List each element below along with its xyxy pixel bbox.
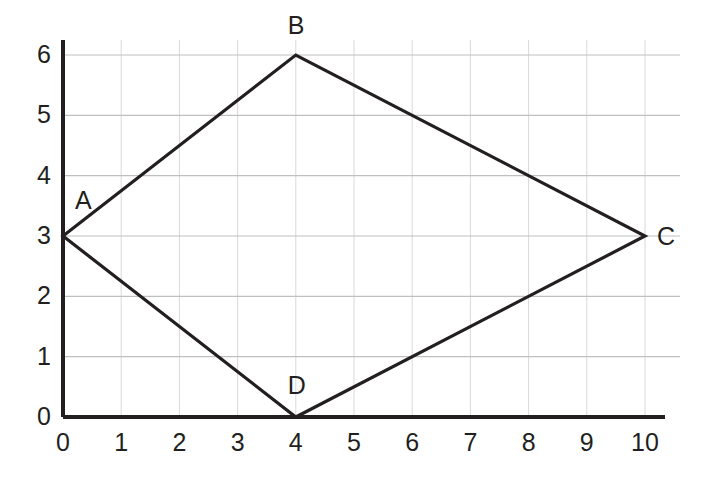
x-tick-label-2: 2: [159, 430, 199, 455]
chart-figure: 0123456 012345678910 ABCD: [0, 0, 704, 480]
vertex-label-d: D: [288, 373, 306, 398]
y-tick-label-4: 4: [21, 163, 51, 188]
x-tick-label-10: 10: [625, 430, 665, 455]
vertical-gridlines: [63, 40, 645, 417]
vertex-label-b: B: [288, 13, 305, 38]
plot-area: [0, 0, 704, 480]
x-tick-label-8: 8: [509, 430, 549, 455]
y-tick-label-6: 6: [21, 42, 51, 67]
vertex-label-c: C: [657, 224, 675, 249]
x-tick-label-0: 0: [43, 430, 83, 455]
x-tick-label-6: 6: [392, 430, 432, 455]
vertex-label-a: A: [75, 188, 92, 213]
x-tick-label-3: 3: [218, 430, 258, 455]
y-tick-label-2: 2: [21, 283, 51, 308]
x-tick-label-4: 4: [276, 430, 316, 455]
x-tick-label-1: 1: [101, 430, 141, 455]
y-tick-label-1: 1: [21, 344, 51, 369]
y-tick-label-3: 3: [21, 223, 51, 248]
x-tick-label-5: 5: [334, 430, 374, 455]
axes: [63, 40, 665, 417]
x-tick-label-9: 9: [567, 430, 607, 455]
y-tick-label-0: 0: [21, 404, 51, 429]
y-tick-label-5: 5: [21, 102, 51, 127]
x-tick-label-7: 7: [450, 430, 490, 455]
